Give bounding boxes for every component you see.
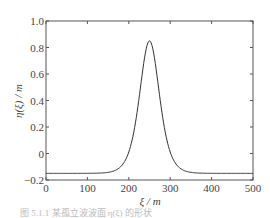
plot-frame [46,21,253,180]
x-tick-label: 300 [162,182,179,194]
y-tick-label: 1.0 [30,15,44,27]
data-series-line [46,41,253,174]
line-chart: −0.200.20.40.60.81.0 0100200300400500 ξ … [0,0,270,218]
x-tick-label: 400 [203,182,220,194]
y-tick-label: 0.4 [30,95,44,107]
y-tick-label: 0.8 [30,42,44,54]
y-axis-label: η(ξ) / m [12,84,25,118]
x-tick-label: 200 [121,182,138,194]
y-tick-label: −0.2 [24,174,44,186]
figure-caption: 图 5.1.1 某孤立波波面 η(ξ) 的形状 [20,206,260,218]
x-tick-label: 100 [79,182,96,194]
y-tick-label: 0 [39,148,45,160]
y-tick-label: 0.2 [30,121,44,133]
x-tick-label: 0 [43,182,49,194]
y-tick-label: 0.6 [30,68,44,80]
x-tick-label: 500 [245,182,262,194]
